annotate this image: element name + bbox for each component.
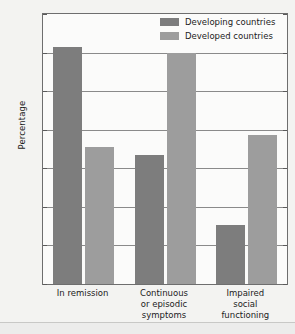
chart-figure: Percentage 010203040506070 In remissionC… <box>0 0 295 334</box>
bar-developing <box>216 225 245 284</box>
legend-label-developed: Developed countries <box>185 31 273 41</box>
axis-tick <box>283 130 287 131</box>
bar-developed <box>167 53 196 284</box>
axis-tick <box>283 91 287 92</box>
axis-tick <box>43 245 47 246</box>
axis-tick <box>43 284 47 285</box>
bar-developed <box>85 147 114 284</box>
axis-tick <box>283 245 287 246</box>
legend: Developing countries Developed countries <box>160 17 275 45</box>
plot-area <box>42 13 288 285</box>
bar-developed <box>248 135 277 284</box>
axis-tick <box>283 168 287 169</box>
category-label: Continuous or episodic symptoms <box>123 288 204 321</box>
bar-developing <box>53 47 82 284</box>
axis-tick <box>283 207 287 208</box>
legend-swatch-developing <box>160 18 179 26</box>
axis-tick <box>283 284 287 285</box>
axis-tick <box>43 14 47 15</box>
axis-tick <box>43 91 47 92</box>
legend-label-developing: Developing countries <box>185 17 275 27</box>
y-axis-title: Percentage <box>17 70 27 180</box>
axis-tick <box>43 207 47 208</box>
category-label: In remission <box>42 288 123 299</box>
bottom-strip <box>0 323 295 334</box>
axis-tick <box>283 53 287 54</box>
category-label: Impaired social functioning <box>205 288 286 321</box>
axis-tick <box>43 130 47 131</box>
legend-item-developing: Developing countries <box>160 17 275 27</box>
axis-tick <box>43 168 47 169</box>
legend-item-developed: Developed countries <box>160 31 275 41</box>
axis-tick <box>43 53 47 54</box>
axis-tick <box>283 14 287 15</box>
legend-swatch-developed <box>160 32 179 40</box>
bar-developing <box>135 155 164 284</box>
